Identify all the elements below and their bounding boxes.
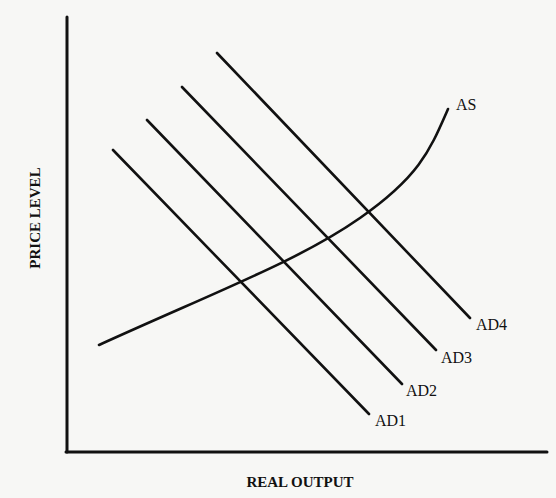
ad2-label: AD2 [406, 382, 437, 399]
ad3-curve [182, 87, 436, 350]
y-axis-title: PRICE LEVEL [27, 167, 43, 268]
as-ad-diagram: PRICE LEVEL REAL OUTPUT AS AD1 AD2 AD3 A… [0, 0, 556, 498]
as-label: AS [456, 96, 476, 113]
ad1-label: AD1 [375, 412, 406, 429]
ad4-label: AD4 [476, 316, 507, 333]
ad3-label: AD3 [441, 349, 472, 366]
ad2-curve [147, 120, 402, 384]
x-axis-title: REAL OUTPUT [246, 474, 353, 490]
ad4-curve [217, 53, 470, 318]
